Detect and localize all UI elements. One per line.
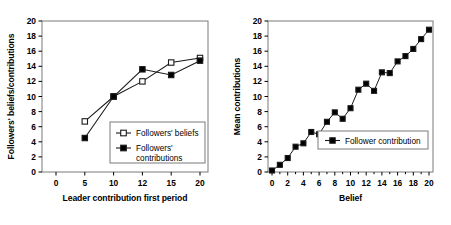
data-point-0-13 (372, 88, 377, 93)
y-tick-label: 16 (27, 46, 37, 56)
data-point-0-7 (324, 119, 329, 124)
data-point-1-0 (82, 135, 87, 140)
y-tick-label: 20 (253, 16, 263, 26)
data-point-0-3 (293, 144, 298, 149)
x-tick-label: 5 (82, 178, 87, 188)
x-tick-label: 4 (301, 178, 306, 188)
x-tick-label: 12 (138, 178, 148, 188)
y-tick-label: 18 (27, 31, 37, 41)
data-point-1-1 (111, 94, 116, 99)
data-point-0-8 (332, 110, 337, 115)
legend-label-1b: contributions (136, 154, 182, 163)
data-point-0-0 (82, 119, 87, 124)
data-point-0-2 (285, 156, 290, 161)
x-tick-label: 0 (54, 178, 59, 188)
data-point-0-9 (340, 116, 345, 121)
legend-marker-0 (121, 130, 127, 136)
data-point-0-5 (309, 129, 314, 134)
x-tick-label: 16 (393, 178, 403, 188)
legend-marker-0 (330, 138, 335, 143)
x-tick-label: 10 (109, 178, 119, 188)
data-point-0-12 (364, 81, 369, 86)
left-plot-area: 024681012141618200510121520Leader contri… (6, 16, 208, 203)
y-tick-label: 18 (253, 31, 263, 41)
chart-panel-left: 024681012141618200510121520Leader contri… (0, 0, 225, 225)
y-axis-title: Mean contributions (232, 57, 242, 135)
y-tick-label: 10 (253, 92, 263, 102)
data-point-0-16 (395, 59, 400, 64)
data-point-0-0 (270, 168, 275, 173)
x-axis-title: Belief (339, 193, 362, 203)
data-point-0-18 (411, 46, 416, 51)
y-tick-label: 2 (257, 152, 262, 162)
y-tick-label: 6 (31, 122, 36, 132)
y-tick-label: 4 (31, 137, 36, 147)
y-tick-label: 4 (257, 137, 262, 147)
legend-label-0: Followers' beliefs (136, 129, 199, 138)
y-tick-label: 8 (257, 107, 262, 117)
legend-marker-1 (121, 145, 127, 151)
y-tick-label: 2 (31, 152, 36, 162)
legend-label-1a: Followers' (136, 144, 173, 153)
data-point-0-15 (387, 71, 392, 76)
x-tick-label: 8 (332, 178, 337, 188)
y-tick-label: 10 (27, 92, 37, 102)
data-point-1-3 (169, 72, 174, 77)
x-tick-label: 12 (362, 178, 372, 188)
data-point-0-14 (379, 70, 384, 75)
data-point-0-3 (169, 60, 174, 65)
y-tick-label: 14 (27, 61, 37, 71)
y-tick-label: 6 (257, 122, 262, 132)
data-point-0-2 (140, 79, 145, 84)
x-tick-label: 18 (409, 178, 419, 188)
figure-container: 024681012141618200510121520Leader contri… (0, 0, 451, 225)
x-tick-label: 10 (346, 178, 356, 188)
y-tick-label: 20 (27, 16, 37, 26)
data-point-0-10 (348, 106, 353, 111)
data-point-0-4 (301, 141, 306, 146)
data-point-0-11 (356, 87, 361, 92)
data-point-0-20 (427, 27, 432, 32)
y-tick-label: 16 (253, 46, 263, 56)
data-point-0-17 (403, 54, 408, 59)
legend-label-0: Follower contribution (345, 137, 421, 146)
data-point-0-19 (419, 37, 424, 42)
y-tick-label: 12 (253, 76, 263, 86)
y-tick-label: 14 (253, 61, 263, 71)
y-axis-title: Followers' beliefs/contributions (6, 33, 16, 159)
x-tick-label: 20 (195, 178, 205, 188)
x-tick-label: 20 (424, 178, 434, 188)
y-tick-label: 0 (31, 167, 36, 177)
x-tick-label: 14 (377, 178, 387, 188)
right-chart-svg: 0246810121416182002468101214161820Belief… (226, 0, 451, 225)
x-axis-title: Leader contribution first period (63, 193, 188, 203)
left-chart-svg: 024681012141618200510121520Leader contri… (0, 0, 225, 225)
chart-panel-right: 0246810121416182002468101214161820Belief… (226, 0, 451, 225)
data-point-0-1 (277, 162, 282, 167)
y-tick-label: 0 (257, 167, 262, 177)
x-tick-label: 15 (167, 178, 177, 188)
right-plot-area: 0246810121416182002468101214161820Belief… (232, 16, 434, 203)
y-tick-label: 8 (31, 107, 36, 117)
data-point-1-2 (140, 67, 145, 72)
x-tick-label: 0 (270, 178, 275, 188)
data-point-1-4 (197, 58, 202, 63)
y-tick-label: 12 (27, 76, 37, 86)
x-tick-label: 2 (285, 178, 290, 188)
x-tick-label: 6 (317, 178, 322, 188)
